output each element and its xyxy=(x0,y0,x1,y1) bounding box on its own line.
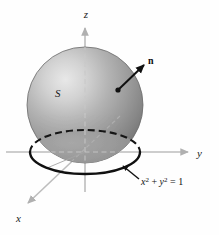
normal-vector-basepoint xyxy=(115,87,120,92)
y-axis-label: y xyxy=(196,147,202,159)
math-figure-svg: z y x S n x2 + y2 = 1 xyxy=(0,0,219,235)
x-axis-label: x xyxy=(15,212,21,224)
surface-label-S: S xyxy=(55,87,61,99)
eq-equals-one: = 1 xyxy=(168,176,184,187)
normal-vector-label-n: n xyxy=(148,55,154,66)
z-axis-label: z xyxy=(83,8,89,20)
figure-container: z y x S n x2 + y2 = 1 xyxy=(0,0,219,235)
eq-plus: + xyxy=(149,176,160,187)
